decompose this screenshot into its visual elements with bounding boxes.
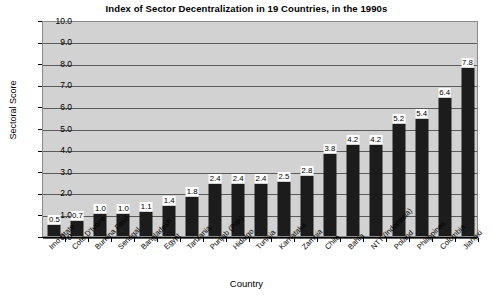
bar-value-label: 2.5 xyxy=(278,172,291,181)
bar-value-label: 2.4 xyxy=(255,174,268,183)
bar-group: 6.4 xyxy=(433,22,456,236)
bar[interactable] xyxy=(461,68,474,236)
bar-value-label: 1.4 xyxy=(163,196,176,205)
bar-group: 1.0 xyxy=(112,22,135,236)
bar-chart: Index of Sector Decentralization in 19 C… xyxy=(0,0,493,298)
y-tick-mark xyxy=(38,129,42,130)
bar-value-label: 1.8 xyxy=(186,187,199,196)
bar-value-label: 1.1 xyxy=(140,202,153,211)
bar[interactable] xyxy=(254,184,267,236)
plot-area: 0.50.71.01.01.11.41.82.42.42.42.52.83.84… xyxy=(42,21,478,237)
y-tick-mark xyxy=(38,215,42,216)
bar-group: 1.0 xyxy=(89,22,112,236)
bar-group: 1.4 xyxy=(158,22,181,236)
bar-group: 1.8 xyxy=(181,22,204,236)
y-tick-mark xyxy=(38,21,42,22)
y-tick-mark xyxy=(38,43,42,44)
y-axis-title: Sectoral Score xyxy=(8,50,18,170)
bar-group: 2.8 xyxy=(295,22,318,236)
bar-group: 7.8 xyxy=(456,22,479,236)
bar-group: 2.4 xyxy=(250,22,273,236)
x-axis-title: Country xyxy=(0,278,493,289)
bar-value-label: 2.4 xyxy=(232,174,245,183)
y-tick-mark xyxy=(38,172,42,173)
bar-group: 1.1 xyxy=(135,22,158,236)
bar[interactable] xyxy=(323,154,336,236)
bar-value-label: 2.8 xyxy=(300,166,313,175)
bar-group: 2.4 xyxy=(227,22,250,236)
bar[interactable] xyxy=(415,119,428,236)
bar-value-label: 2.4 xyxy=(209,174,222,183)
bar-group: 5.2 xyxy=(387,22,410,236)
bar-value-label: 4.2 xyxy=(346,135,359,144)
y-tick-mark xyxy=(38,107,42,108)
bar-value-label: 5.4 xyxy=(415,109,428,118)
bar-group: 2.5 xyxy=(272,22,295,236)
bar-value-label: 5.2 xyxy=(392,114,405,123)
y-tick-mark xyxy=(38,151,42,152)
bar[interactable] xyxy=(277,182,290,236)
y-tick-mark xyxy=(38,194,42,195)
bar-value-label: 1.0 xyxy=(117,204,130,213)
y-tick-mark xyxy=(38,86,42,87)
bar-value-label: 3.8 xyxy=(323,144,336,153)
bar[interactable] xyxy=(369,145,382,236)
bar[interactable] xyxy=(438,98,451,236)
y-tick-mark xyxy=(38,237,42,238)
bar-value-label: 6.4 xyxy=(438,88,451,97)
bar-value-label: 0.7 xyxy=(71,211,84,220)
bar-value-label: 7.8 xyxy=(461,58,474,67)
bar-group: 4.2 xyxy=(341,22,364,236)
bar-group: 2.4 xyxy=(204,22,227,236)
bar-group: 3.8 xyxy=(318,22,341,236)
bar[interactable] xyxy=(186,197,199,236)
y-tick-mark xyxy=(38,64,42,65)
chart-title: Index of Sector Decentralization in 19 C… xyxy=(0,3,493,14)
bar-group: 4.2 xyxy=(364,22,387,236)
bar[interactable] xyxy=(346,145,359,236)
bar-value-label: 1.0 xyxy=(94,204,107,213)
bar-value-label: 4.2 xyxy=(369,135,382,144)
bar-group: 5.4 xyxy=(410,22,433,236)
